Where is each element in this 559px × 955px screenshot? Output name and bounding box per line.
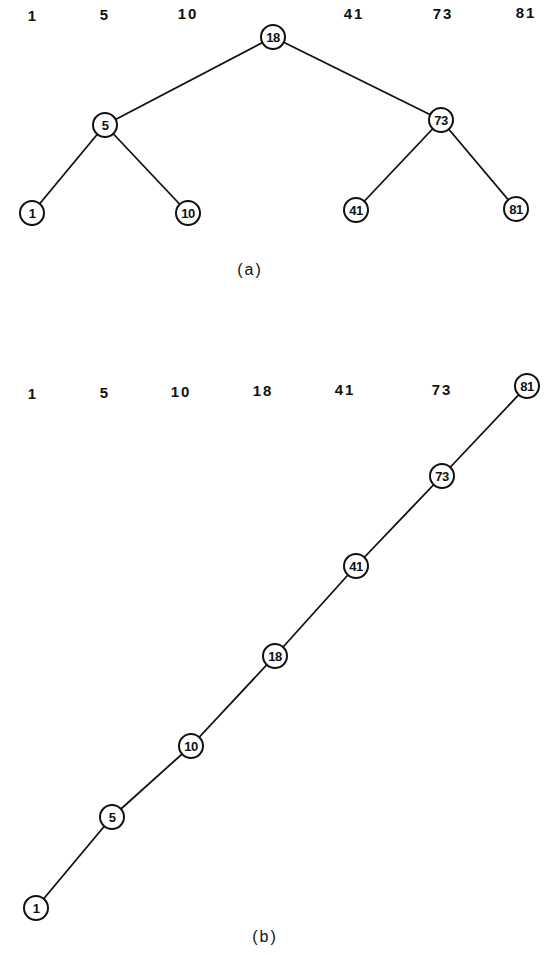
key-label: 5 <box>100 6 110 23</box>
tree-node-41: 41 <box>343 553 369 579</box>
key-label: 10 <box>171 383 192 400</box>
tree-node-1: 1 <box>19 200 45 226</box>
tree-node-10: 10 <box>175 200 201 226</box>
key-label: 81 <box>516 4 537 21</box>
tree-node-41: 41 <box>343 197 369 223</box>
tree-node-73: 73 <box>429 463 455 489</box>
key-label: 73 <box>432 381 453 398</box>
key-label: 73 <box>433 5 454 22</box>
caption-a: (a) <box>237 261 263 279</box>
tree-node-1: 1 <box>23 895 49 921</box>
tree-node-5: 5 <box>99 804 125 830</box>
key-label: 1 <box>28 385 38 402</box>
key-label: 41 <box>344 5 365 22</box>
key-label: 41 <box>335 381 356 398</box>
tree-node-18: 18 <box>262 643 288 669</box>
tree-node-5: 5 <box>92 112 118 138</box>
tree-node-10: 10 <box>178 733 204 759</box>
tree-node-81: 81 <box>514 373 540 399</box>
key-label: 10 <box>178 5 199 22</box>
tree-node-18: 18 <box>260 24 286 50</box>
caption-b: (b) <box>252 928 278 946</box>
tree-edges <box>0 0 559 955</box>
key-label: 5 <box>100 384 110 401</box>
key-label: 18 <box>253 382 274 399</box>
tree-node-81: 81 <box>503 196 529 222</box>
key-label: 1 <box>28 7 38 24</box>
tree-node-73: 73 <box>428 107 454 133</box>
